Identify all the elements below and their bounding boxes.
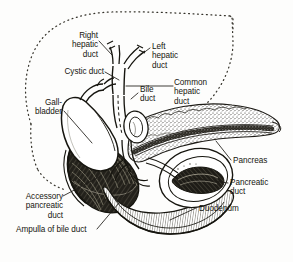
label-right-hepatic-duct: Right hepatic duct — [52, 31, 98, 59]
label-bile-duct: Bile duct — [140, 85, 170, 104]
label-ampulla-of-bile-duct: Ampulla of bile duct — [16, 225, 126, 234]
label-pancreas: Pancreas — [233, 156, 285, 165]
anatomy-illustration — [0, 0, 293, 262]
label-cystic-duct: Cystic duct — [40, 67, 104, 76]
label-duodenum: Duodenum — [199, 204, 257, 213]
label-common-hepatic-duct: Common hepatic duct — [174, 78, 224, 106]
label-pancreatic-duct: Pancreatic duct — [230, 178, 288, 197]
label-accessory-pancreatic-duct: Accessory pancreatic duct — [7, 192, 63, 220]
label-gallbladder: Gall- bladder — [14, 98, 62, 117]
label-left-hepatic-duct: Left hepatic duct — [152, 42, 200, 70]
anatomy-figure: Right hepatic duct Left hepatic duct Cys… — [0, 0, 293, 262]
